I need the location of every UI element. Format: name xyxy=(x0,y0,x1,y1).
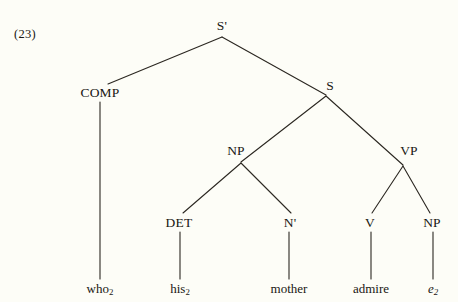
syntax-tree-figure: (23) S'COMPSNPVPDETN'VNPwho2his2motherad… xyxy=(0,0,458,302)
tree-edge-group xyxy=(100,37,433,279)
tree-node-np-obj: NP xyxy=(423,216,441,230)
tree-node-det: DET xyxy=(166,216,193,230)
terminal-subscript-who: 2 xyxy=(109,287,113,297)
tree-node-comp: COMP xyxy=(80,86,119,100)
tree-edge-np-subj-to-n-bar xyxy=(241,163,291,213)
tree-terminal-who: who2 xyxy=(87,282,114,295)
tree-node-s: S xyxy=(326,79,334,93)
terminal-word-trace: e xyxy=(428,281,434,296)
tree-edge-s-to-vp xyxy=(326,96,403,165)
terminal-word-mother: mother xyxy=(271,281,308,296)
tree-edge-np-subj-to-det xyxy=(183,163,241,213)
tree-edge-s-bar-to-comp xyxy=(108,37,222,84)
tree-terminal-his: his2 xyxy=(170,282,190,295)
tree-node-np-subj: NP xyxy=(227,144,245,158)
terminal-word-his: his xyxy=(170,281,185,296)
terminal-word-who: who xyxy=(87,281,109,296)
terminal-word-admire: admire xyxy=(353,281,389,296)
tree-node-n-bar: N' xyxy=(284,216,297,230)
tree-terminal-mother: mother xyxy=(271,282,308,295)
tree-edge-s-to-np-subj xyxy=(241,96,326,162)
terminal-subscript-trace: 2 xyxy=(434,287,438,297)
tree-edge-vp-to-v xyxy=(372,166,403,213)
tree-edge-vp-to-np-obj xyxy=(403,166,430,213)
tree-terminal-trace: e2 xyxy=(428,282,438,295)
tree-edge-s-bar-to-s xyxy=(222,37,326,95)
tree-node-vp: VP xyxy=(400,144,418,158)
tree-terminal-admire: admire xyxy=(353,282,389,295)
tree-node-v: V xyxy=(365,216,375,230)
tree-node-s-bar: S' xyxy=(217,19,227,33)
terminal-subscript-his: 2 xyxy=(185,287,189,297)
